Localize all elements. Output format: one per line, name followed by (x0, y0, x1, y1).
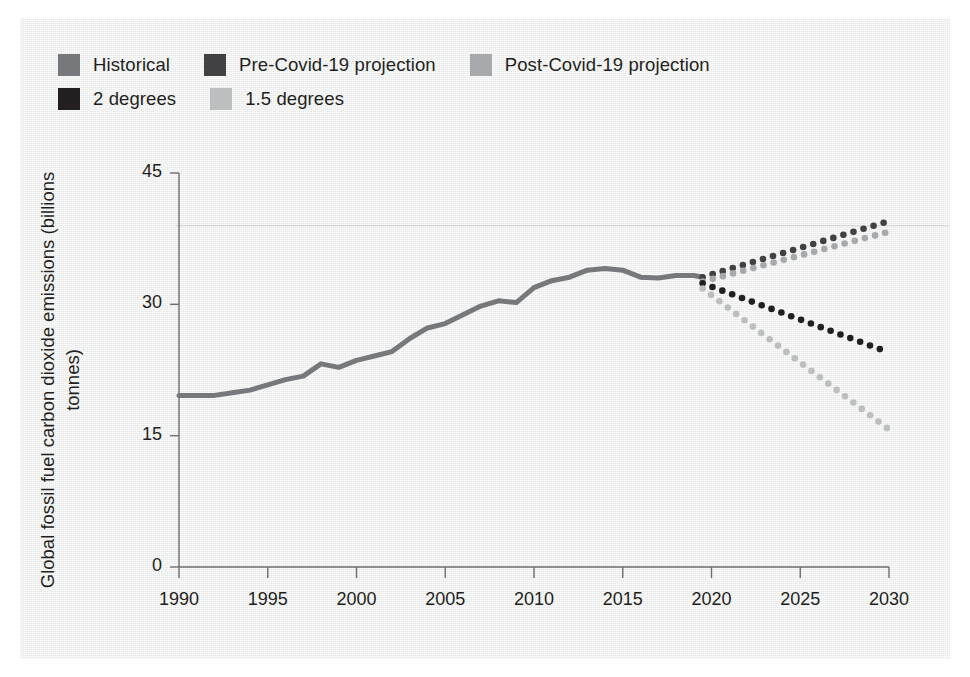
series-dot (770, 253, 777, 260)
x-tick-label: 2010 (499, 589, 569, 610)
series-dot (750, 323, 757, 330)
series-dot (801, 251, 808, 258)
series-dot (775, 342, 782, 349)
series-dot (842, 393, 849, 400)
series-dot (880, 219, 887, 226)
series-dot (820, 238, 827, 245)
series-dot (862, 235, 869, 242)
series-dot (817, 324, 824, 331)
series-dotted-2-degrees (699, 280, 883, 352)
series-dotted-pre-covid-19-projection (699, 219, 887, 280)
series-dot (791, 355, 798, 362)
series-dotted-post-covid-19-projection (699, 229, 888, 284)
series-dot (766, 336, 773, 343)
series-dot (730, 270, 737, 277)
x-tick-label: 2000 (322, 589, 392, 610)
series-dot (758, 302, 765, 309)
series-dot (758, 330, 765, 337)
x-tick-label: 2025 (765, 589, 835, 610)
series-dot (825, 380, 832, 387)
series-dot (768, 306, 775, 313)
series-dot (783, 349, 790, 356)
series-dot (857, 338, 864, 345)
series-dot (817, 374, 824, 381)
series-dot (778, 309, 785, 316)
series-dot (858, 406, 865, 413)
data-series-group (179, 219, 890, 431)
series-dot (798, 317, 805, 324)
series-dot (837, 331, 844, 338)
x-tick-label: 1990 (144, 589, 214, 610)
y-tick-label: 45 (112, 161, 162, 182)
series-dot (867, 342, 874, 349)
series-dot (750, 265, 757, 272)
series-dot (791, 254, 798, 261)
series-dot (841, 240, 848, 247)
series-dot (840, 232, 847, 239)
series-dot (733, 311, 740, 318)
series-dot (709, 276, 716, 283)
series-dot (719, 287, 726, 294)
series-dot (830, 235, 837, 242)
series-dot (867, 412, 874, 419)
series-dot (833, 387, 840, 394)
series-dot (740, 267, 747, 274)
series-dot (790, 247, 797, 254)
series-dot (741, 317, 748, 324)
series-dot (780, 250, 787, 257)
series-line-historical (179, 268, 703, 395)
series-dot (740, 262, 747, 269)
series-dot (877, 346, 884, 353)
series-dot (847, 335, 854, 342)
series-dot (720, 273, 727, 280)
series-dotted-1-5-degrees (699, 285, 890, 431)
x-tick-label: 2005 (410, 589, 480, 610)
series-dot (708, 292, 715, 299)
series-dot (851, 238, 858, 245)
series-dot (860, 226, 867, 233)
series-dot (872, 232, 879, 239)
series-dot (800, 244, 807, 251)
series-dot (780, 257, 787, 264)
series-dot (875, 418, 882, 425)
series-dot (716, 298, 723, 305)
series-dot (749, 298, 756, 305)
series-dot (724, 304, 731, 311)
y-tick-label: 15 (112, 424, 162, 445)
y-axis-label: Global fossil fuel carbon dioxide emissi… (35, 170, 85, 590)
series-dot (788, 313, 795, 320)
x-tick-label: 1995 (233, 589, 303, 610)
y-tick-label: 30 (112, 292, 162, 313)
y-tick-label: 0 (112, 555, 162, 576)
series-dot (750, 259, 757, 266)
series-dot (810, 241, 817, 248)
series-dot (760, 256, 767, 263)
x-tick-label: 2020 (677, 589, 747, 610)
series-dot (760, 262, 767, 269)
series-dot (831, 243, 838, 250)
series-dot (882, 229, 889, 236)
series-dot (808, 368, 815, 375)
series-dot (709, 284, 716, 291)
series-dot (729, 291, 736, 298)
series-dot (699, 285, 706, 292)
x-tick-label: 2015 (588, 589, 658, 610)
series-dot (739, 295, 746, 302)
series-dot (808, 320, 815, 327)
x-tick-label: 2030 (854, 589, 924, 610)
series-dot (850, 229, 857, 236)
series-dot (827, 328, 834, 335)
series-dot (821, 246, 828, 253)
series-dot (770, 259, 777, 266)
series-dot (870, 223, 877, 230)
axis-lines (179, 173, 889, 567)
figure-root: HistoricalPre-Covid-19 projectionPost-Co… (0, 0, 970, 677)
series-dot (811, 248, 818, 255)
axis-ticks (170, 173, 889, 578)
series-dot (800, 361, 807, 368)
series-dot (884, 425, 891, 432)
series-dot (850, 399, 857, 406)
